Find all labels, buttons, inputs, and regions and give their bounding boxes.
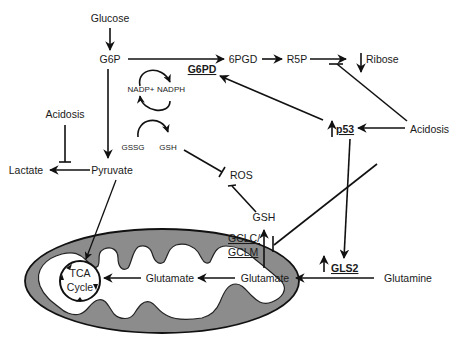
node-glucose: Glucose — [91, 12, 130, 24]
node-p53: p53 — [336, 123, 354, 135]
inhibit-acidosis-ribose — [337, 64, 407, 121]
arrow-p53-gls2 — [344, 139, 350, 258]
node-acidosis-left: Acidosis — [45, 108, 84, 120]
node-ros: ROS — [230, 169, 253, 181]
enzyme-gclc: GCLC/ — [228, 232, 260, 244]
tca-label-line2: Cycle — [67, 281, 93, 293]
node-nadph: NADPH — [157, 85, 185, 94]
node-glutamate-inner: Glutamate — [146, 272, 195, 284]
enzyme-gclm: GCLM — [228, 246, 258, 258]
enzyme-gls2: GLS2 — [331, 262, 359, 274]
node-nadp-plus: NADP+ — [128, 85, 155, 94]
node-r5p: R5P — [287, 53, 307, 65]
arrow-p53-g6pd — [220, 76, 323, 120]
tca-cycle: TCA Cycle — [60, 261, 100, 302]
inhibit-acidosis-gcl — [274, 164, 377, 245]
inhibit-gsh2-ros — [232, 186, 256, 212]
node-gsh-cycle: GSH — [159, 143, 177, 152]
arrow-nadp-nadph — [140, 70, 170, 86]
node-6pgd: 6PGD — [229, 53, 258, 65]
enzyme-g6pd: G6PD — [188, 63, 217, 75]
node-acidosis-right: Acidosis — [410, 123, 449, 135]
metabolic-pathway-diagram: TCA Cycle — [0, 0, 456, 344]
node-glutamate-outer: Glutamate — [241, 272, 290, 284]
inhibit-gsh-ros — [184, 150, 222, 172]
arrow-gssg-gsh — [138, 120, 168, 137]
node-glutamine: Glutamine — [384, 272, 432, 284]
tca-label-line1: TCA — [70, 267, 91, 279]
node-lactate: Lactate — [9, 164, 44, 176]
node-ribose: Ribose — [366, 53, 399, 65]
node-g6p: G6P — [99, 53, 120, 65]
node-gssg: GSSG — [121, 143, 144, 152]
node-gsh: GSH — [253, 211, 276, 223]
node-pyruvate: Pyruvate — [91, 164, 133, 176]
